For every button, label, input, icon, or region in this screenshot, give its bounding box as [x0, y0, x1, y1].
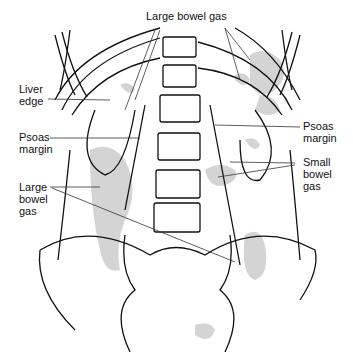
label-liver-edge: Liver edge: [19, 83, 43, 107]
label-small-bowel-gas: Small bowel gas: [303, 156, 332, 192]
gas-shadows: [90, 51, 284, 339]
label-line: gas: [19, 205, 48, 217]
label-psoas-left: Psoas margin: [19, 131, 53, 155]
label-line: gas: [303, 180, 332, 192]
label-line: edge: [19, 95, 43, 107]
label-large-bowel-gas-top: Large bowel gas: [146, 10, 227, 22]
label-line: bowel: [303, 168, 332, 180]
label-line: Liver: [19, 83, 43, 95]
label-line: Psoas: [303, 120, 337, 132]
label-line: Small: [303, 156, 332, 168]
label-line: margin: [19, 143, 53, 155]
label-large-bowel-gas-left: Large bowel gas: [19, 181, 48, 217]
abdomen-diagram: [0, 0, 353, 352]
label-line: bowel: [19, 193, 48, 205]
label-line: Psoas: [19, 131, 53, 143]
label-line: Large: [19, 181, 48, 193]
label-psoas-right: Psoas margin: [303, 120, 337, 144]
label-line: margin: [303, 132, 337, 144]
